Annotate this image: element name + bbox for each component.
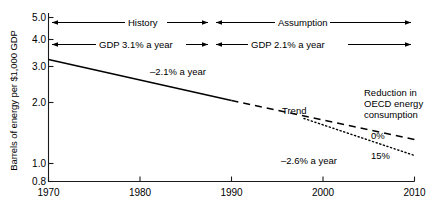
series-trend-15pct-line — [304, 119, 415, 156]
span-label-history: History — [128, 17, 158, 28]
span-label-gdp-history: GDP 3.1% a year — [99, 39, 173, 50]
annotation-trend-label: Trend — [282, 105, 306, 116]
x-tick-2000: 2000 — [299, 188, 347, 198]
end-label-0-percent: 0% — [371, 130, 385, 141]
y-tick-0-8: 0.8 — [20, 177, 46, 187]
annotation-reduction-caption: Reduction in OECD energy consumption — [364, 87, 434, 120]
end-label-15-percent: 15% — [371, 150, 390, 161]
y-tick-5-0: 5.0 — [20, 13, 46, 23]
x-tick-1970: 1970 — [25, 188, 73, 198]
annotation-trend-rate: –2.6% a year — [281, 155, 337, 166]
span-label-assumption: Assumption — [278, 17, 328, 28]
y-axis-ticks — [49, 18, 54, 182]
annotation-history-rate: –2.1% a year — [150, 66, 206, 77]
x-tick-2010: 2010 — [391, 188, 434, 198]
x-tick-1980: 1980 — [116, 188, 164, 198]
chart-figure: Barrels of energy per $1,000 GDP 5.0 4.0… — [0, 0, 434, 221]
y-tick-4-0: 4.0 — [20, 35, 46, 45]
x-tick-labels: 1970 1980 1990 2000 2010 — [0, 188, 434, 204]
y-tick-2-0: 2.0 — [20, 98, 46, 108]
y-tick-1-0: 1.0 — [20, 159, 46, 169]
x-tick-1990: 1990 — [208, 188, 256, 198]
y-axis-title: Barrels of energy per $1,000 GDP — [8, 11, 19, 191]
x-axis-ticks — [49, 177, 415, 182]
y-tick-3-0: 3.0 — [20, 62, 46, 72]
span-label-gdp-assumption: GDP 2.1% a year — [251, 39, 325, 50]
